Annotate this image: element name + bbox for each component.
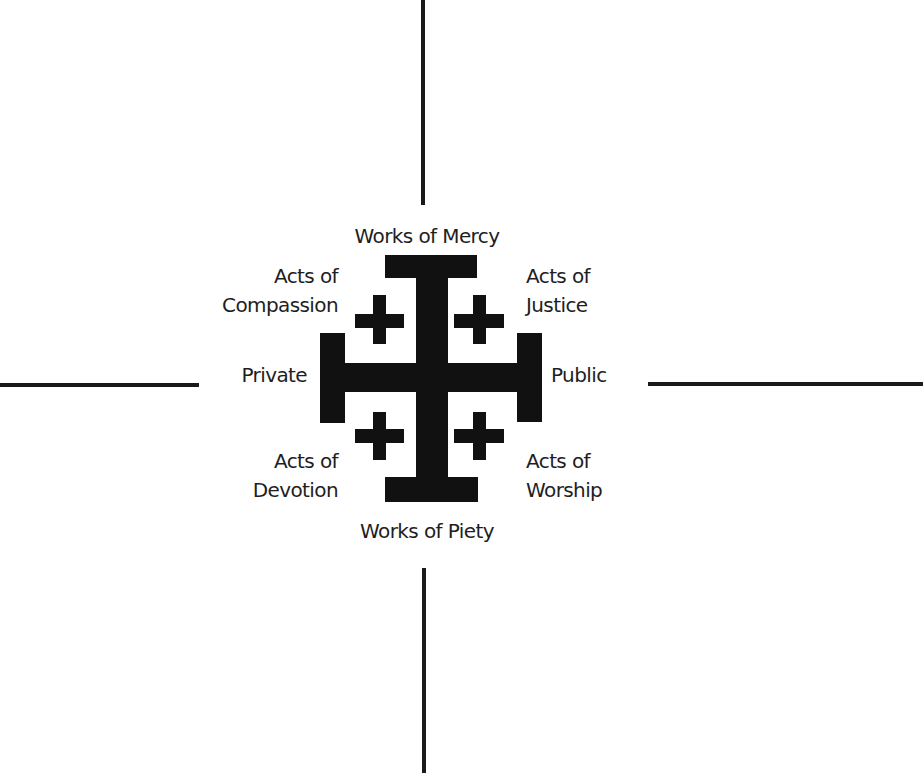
- label-works-of-mercy: Works of Mercy: [327, 222, 527, 251]
- vertical-axis-top-line: [421, 0, 425, 205]
- cross-top-bar: [385, 255, 477, 278]
- label-acts-of-devotion: Acts of Devotion: [177, 447, 338, 505]
- label-line: Acts of: [177, 262, 338, 291]
- cross-right-bar: [517, 333, 542, 422]
- label-line: Worship: [526, 476, 646, 505]
- horizontal-axis-left-line: [0, 383, 199, 387]
- horizontal-axis-right-line: [648, 382, 923, 386]
- label-line: Acts of: [526, 262, 646, 291]
- label-acts-of-worship: Acts of Worship: [526, 447, 646, 505]
- cross-left-bar: [320, 333, 345, 423]
- label-acts-of-justice: Acts of Justice: [526, 262, 646, 320]
- label-public: Public: [551, 361, 651, 390]
- label-acts-of-compassion: Acts of Compassion: [177, 262, 338, 320]
- label-line: Acts of: [177, 447, 338, 476]
- label-line: Compassion: [177, 291, 338, 320]
- label-line: Devotion: [177, 476, 338, 505]
- vertical-axis-bottom-line: [422, 568, 426, 773]
- label-works-of-piety: Works of Piety: [327, 517, 527, 546]
- cross-bottom-bar: [385, 477, 478, 502]
- cross-horizontal-arm: [320, 363, 542, 392]
- label-line: Justice: [526, 291, 646, 320]
- label-private: Private: [186, 361, 307, 390]
- label-line: Acts of: [526, 447, 646, 476]
